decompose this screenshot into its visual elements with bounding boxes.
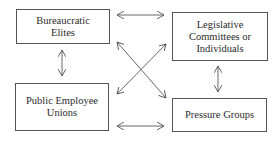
node-label-line: Individuals [189,43,251,55]
node-label-line: Public Employee [26,95,98,107]
node-label-line: Pressure Groups [185,109,254,121]
arrow-bureaucratic-pressure [117,42,166,98]
node-bureaucratic-elites: Bureaucratic Elites [16,9,110,44]
node-legislative: Legislative Committees or Individuals [172,12,268,61]
node-public-employee-unions: Public Employee Unions [15,83,109,131]
node-label-line: Bureaucratic [36,15,90,27]
node-label-line: Elites [36,27,90,39]
node-label-line: Committees or [189,31,251,43]
node-label-line: Unions [26,107,98,119]
node-pressure-groups: Pressure Groups [172,98,267,132]
node-label-line: Legislative [189,19,251,31]
arrow-legislative-unions [117,44,166,94]
